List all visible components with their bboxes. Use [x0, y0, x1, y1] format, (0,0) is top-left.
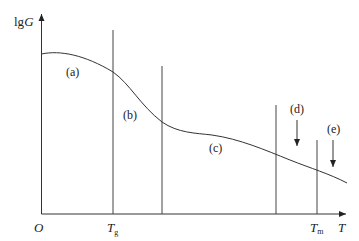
x-axis-label: T: [338, 220, 346, 235]
modulus-curve: [42, 53, 348, 183]
origin-label: O: [34, 220, 44, 235]
region-a-label: (a): [66, 65, 79, 79]
region-e-label: (e): [327, 122, 340, 136]
y-axis-label: lgG: [14, 14, 34, 29]
region-d-label: (d): [290, 102, 304, 116]
tm-label: Tm: [310, 220, 324, 236]
region-c-label: (c): [209, 141, 222, 155]
region-b-label: (b): [123, 108, 137, 122]
tg-label: Tg: [107, 220, 118, 237]
modulus-temperature-diagram: lgG T O Tg Tm (a) (b) (c) (d) (e): [0, 0, 359, 241]
